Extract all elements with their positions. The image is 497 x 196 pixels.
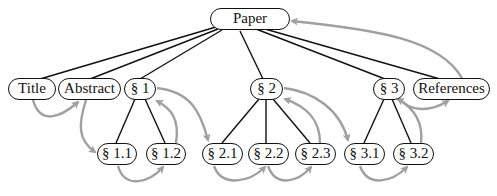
node-abstract: Abstract [58, 78, 121, 100]
arrow-title-abstract [33, 100, 78, 116]
edge-s2-s2-1 [222, 99, 259, 143]
node-section-2-3: § 2.3 [295, 143, 336, 165]
arrow-s1-2-s1 [157, 101, 177, 143]
arrow-s2-s3-1 [284, 88, 348, 140]
edge-paper-references [258, 27, 440, 79]
arrow-s3-1-s3-2 [360, 166, 407, 180]
node-paper: Paper [210, 8, 290, 30]
node-references: References [413, 78, 490, 100]
node-section-3-2: § 3.2 [393, 143, 434, 165]
arrow-s2-1-s2-2 [214, 166, 265, 180]
node-section-3: § 3 [373, 78, 405, 100]
arrow-references-paper [292, 21, 462, 78]
edge-paper-s2 [240, 31, 263, 79]
edge-s1-s1-2 [145, 99, 165, 143]
node-section-1-2: § 1.2 [146, 143, 186, 165]
node-section-1: § 1 [124, 78, 156, 100]
arrow-s2-3-s2 [285, 99, 320, 143]
node-section-3-1: § 3.1 [344, 143, 385, 165]
node-section-2-2: § 2.2 [248, 143, 289, 165]
arrow-abstract-s1-1 [81, 100, 95, 152]
node-section-1-1: § 1.1 [97, 143, 137, 165]
arrow-s1-s2-1 [157, 88, 208, 140]
arrow-s3-references [400, 99, 448, 109]
edge-s3-s3-1 [364, 99, 384, 143]
edge-paper-abstract [90, 29, 218, 79]
node-section-2-1: § 2.1 [202, 143, 243, 165]
arrow-s2-2-s2-3 [268, 166, 311, 180]
document-structure-diagram: Paper Title Abstract § 1 § 2 § 3 Referen… [0, 0, 497, 196]
edge-paper-title [40, 27, 216, 79]
arrow-s1-1-s1-2 [118, 166, 163, 181]
edge-s1-s1-1 [116, 99, 135, 143]
edge-s2-s2-3 [273, 99, 310, 143]
node-section-2: § 2 [250, 78, 283, 100]
edge-paper-s3 [256, 29, 385, 79]
node-title: Title [8, 78, 56, 100]
